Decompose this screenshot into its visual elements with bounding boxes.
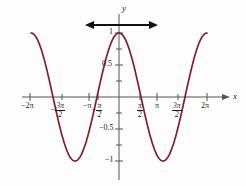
- plot-canvas: [0, 0, 246, 186]
- fraction-denominator: 2: [172, 110, 182, 119]
- x-axis-label: x: [233, 92, 237, 101]
- fraction: 3π 2: [172, 102, 182, 119]
- xtick-label-neg-pi-over-2: − π 2: [91, 101, 102, 119]
- period-arrow-annotation: [85, 21, 158, 29]
- y-axis-label: y: [122, 4, 126, 13]
- fraction-numerator: 3π: [55, 102, 65, 110]
- ytick-label-neg-0-5: −0.5: [99, 124, 114, 132]
- cosine-graph-figure: y x −2π − 3π 2 −π − π 2 π 2 π 3π 2 2π 1 …: [0, 0, 246, 186]
- fraction-denominator: 2: [137, 110, 143, 119]
- fraction-numerator: π: [137, 102, 143, 110]
- xtick-label-pi: π: [155, 102, 159, 110]
- xtick-label-3pi-over-2: 3π 2: [172, 101, 182, 119]
- ytick-label-neg-1: −1: [105, 156, 114, 164]
- fraction-denominator: 2: [96, 110, 102, 119]
- fraction-numerator: π: [96, 102, 102, 110]
- xtick-label-neg-2pi: −2π: [21, 102, 34, 110]
- fraction: π 2: [137, 102, 143, 119]
- fraction-denominator: 2: [55, 110, 65, 119]
- xtick-label-pi-over-2: π 2: [137, 101, 143, 119]
- ytick-label-0-5: 0.5: [102, 60, 112, 68]
- xtick-label-2pi: 2π: [201, 102, 209, 110]
- fraction: π 2: [96, 102, 102, 119]
- xtick-label-neg-3pi-over-2: − 3π 2: [50, 101, 65, 119]
- ytick-label-1: 1: [109, 28, 113, 36]
- fraction-numerator: 3π: [172, 102, 182, 110]
- fraction: 3π 2: [55, 102, 65, 119]
